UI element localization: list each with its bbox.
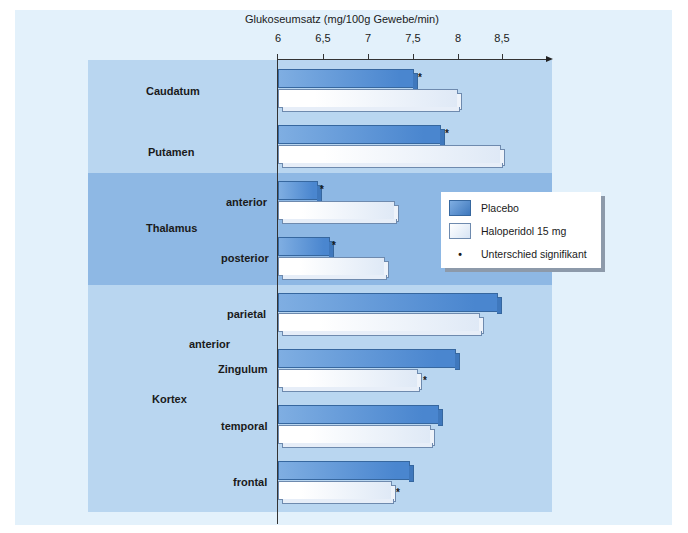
significance-star: * (332, 240, 336, 251)
label-frontal: frontal (233, 476, 267, 488)
legend-label: Unterschied signifikant (481, 248, 587, 260)
placebo-swatch-icon (449, 200, 471, 216)
label-anterior: anterior (189, 338, 230, 350)
label-putamen: Putamen (148, 146, 194, 158)
cut-off-caption (10, 527, 678, 533)
x-tick-label: 7 (365, 32, 371, 44)
bar-zingulum-placebo (278, 349, 456, 368)
bar-parietal-haloperidol (278, 313, 480, 332)
label-temporal: temporal (221, 420, 267, 432)
label-thalamus-anterior: anterior (226, 196, 267, 208)
significance-star: * (445, 128, 449, 139)
legend-item-haloperidol: Haloperidol 15 mg (449, 221, 566, 241)
label-kortex: Kortex (152, 393, 187, 405)
legend-label: Haloperidol 15 mg (481, 225, 566, 237)
x-axis-title: Glukoseumsatz (mg/100g Gewebe/min) (245, 13, 545, 25)
legend-item-significant: • Unterschied signifikant (449, 244, 587, 264)
bar-thalamus-anterior-haloperidol (278, 201, 395, 220)
bar-thalamus-posterior-haloperidol (278, 257, 385, 276)
legend-label: Placebo (481, 202, 519, 214)
bar-temporal-haloperidol (278, 425, 431, 444)
haloperidol-swatch-icon (449, 223, 471, 239)
x-tick-label: 8,5 (494, 32, 509, 44)
x-tick (458, 54, 459, 60)
label-parietal: parietal (227, 308, 266, 320)
legend-item-placebo: Placebo (449, 198, 519, 218)
bar-thalamus-anterior-placebo (278, 181, 318, 200)
significance-star: * (396, 487, 400, 498)
axis-arrow-icon (546, 56, 553, 62)
bar-putamen-haloperidol (278, 145, 501, 164)
bar-putamen-placebo (278, 125, 441, 144)
bar-frontal-haloperidol (278, 481, 392, 500)
x-tick (502, 54, 503, 60)
bar-zingulum-haloperidol (278, 369, 418, 388)
x-tick-label: 6,5 (315, 32, 330, 44)
significance-star: * (423, 375, 427, 386)
label-caudatum: Caudatum (146, 85, 200, 97)
legend: Placebo Haloperidol 15 mg • Unterschied … (441, 192, 601, 268)
bar-frontal-placebo (278, 461, 410, 480)
label-thalamus-posterior: posterior (221, 252, 269, 264)
significance-star: * (418, 72, 422, 83)
bar-thalamus-posterior-placebo (278, 237, 330, 256)
label-thalamus: Thalamus (146, 222, 197, 234)
label-zingulum: Zingulum (218, 363, 268, 375)
x-tick (368, 54, 369, 60)
bar-caudatum-haloperidol (278, 89, 458, 108)
bar-parietal-placebo (278, 293, 498, 312)
bar-caudatum-placebo (278, 69, 414, 88)
significance-dot-icon: • (449, 246, 471, 262)
x-tick-label: 7,5 (405, 32, 420, 44)
x-tick (413, 54, 414, 60)
x-tick-label: 6 (275, 32, 281, 44)
significance-star: * (320, 184, 324, 195)
bar-temporal-placebo (278, 405, 439, 424)
x-tick (323, 54, 324, 60)
x-tick-label: 8 (455, 32, 461, 44)
